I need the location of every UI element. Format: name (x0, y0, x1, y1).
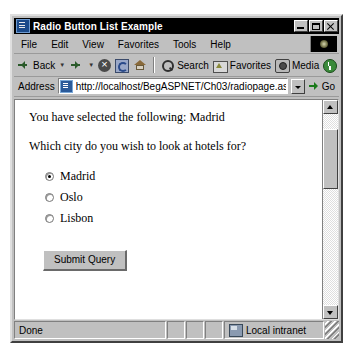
address-url-text: http://localhost/BegASPNET/Ch03/radiopag… (76, 81, 286, 92)
scroll-down-arrow-icon[interactable] (323, 305, 338, 319)
forward-button[interactable] (67, 55, 86, 75)
radio-label-oslo: Oslo (60, 190, 83, 205)
back-arrow-icon (16, 58, 31, 73)
toolbar-separator (153, 57, 155, 73)
maximize-button[interactable] (309, 20, 323, 32)
submit-button-wrap: Submit Query (43, 249, 322, 271)
search-button[interactable]: Search (158, 55, 211, 75)
address-label: Address (18, 81, 55, 92)
back-button[interactable]: Back (14, 55, 57, 75)
vertical-scrollbar[interactable] (322, 100, 338, 319)
refresh-icon (115, 59, 129, 73)
radio-icon-oslo[interactable] (45, 193, 54, 202)
status-pane-2 (186, 321, 204, 339)
radio-button-list: Madrid Oslo Lisbon (45, 168, 322, 227)
window-controls (294, 20, 339, 32)
status-bar: Done Local intranet (14, 321, 339, 339)
close-button[interactable] (324, 20, 338, 32)
forward-arrow-icon (69, 58, 84, 73)
address-input[interactable]: http://localhost/BegASPNET/Ch03/radiopag… (58, 78, 288, 94)
scrollbar-track[interactable] (323, 114, 338, 305)
stop-icon (98, 59, 111, 72)
radio-option-oslo[interactable]: Oslo (45, 189, 322, 206)
resize-grip[interactable] (325, 321, 339, 339)
radio-label-madrid: Madrid (60, 169, 95, 184)
security-zone[interactable]: Local intranet (224, 321, 324, 339)
screenshot-root: Radio Button List Example File Edit View… (0, 0, 353, 350)
radio-label-lisbon: Lisbon (60, 211, 93, 226)
minimize-button[interactable] (294, 20, 308, 32)
radio-icon-lisbon[interactable] (45, 214, 54, 223)
menu-bar: File Edit View Favorites Tools Help (14, 35, 339, 54)
address-dropdown-button[interactable] (291, 79, 305, 94)
menu-item-favorites[interactable]: Favorites (111, 38, 166, 51)
selection-text: You have selected the following: Madrid (29, 110, 322, 125)
refresh-button[interactable] (113, 55, 131, 75)
radio-option-madrid[interactable]: Madrid (45, 168, 322, 185)
history-icon (323, 59, 337, 73)
radio-icon-madrid[interactable] (45, 172, 54, 181)
media-button[interactable]: Media (273, 55, 321, 75)
toolbar: Back ▼ ▼ Search Favorites (14, 54, 339, 77)
app-icon (16, 19, 30, 33)
go-button[interactable]: Go (308, 80, 337, 93)
search-icon (160, 58, 175, 73)
menu-item-view[interactable]: View (75, 38, 111, 51)
title-bar: Radio Button List Example (14, 18, 339, 34)
media-icon (275, 59, 290, 73)
address-bar: Address http://localhost/BegASPNET/Ch03/… (14, 77, 339, 97)
stop-button[interactable] (96, 55, 113, 75)
menu-item-tools[interactable]: Tools (166, 38, 203, 51)
favorites-button[interactable]: Favorites (211, 55, 273, 75)
status-pane-1 (167, 321, 185, 339)
ie-logo-icon (310, 36, 337, 52)
forward-dropdown-icon[interactable]: ▼ (88, 62, 94, 68)
menu-item-help[interactable]: Help (203, 38, 238, 51)
home-icon (133, 58, 148, 73)
back-button-label: Back (33, 60, 55, 71)
scroll-up-arrow-icon[interactable] (323, 100, 338, 114)
menu-item-file[interactable]: File (14, 38, 44, 51)
page-document-icon (60, 80, 73, 93)
content-area: You have selected the following: Madrid … (14, 99, 339, 320)
radio-option-lisbon[interactable]: Lisbon (45, 210, 322, 227)
question-text: Which city do you wish to look at hotels… (29, 139, 322, 154)
submit-query-button[interactable]: Submit Query (43, 250, 127, 271)
window-title: Radio Button List Example (33, 21, 294, 32)
network-zone-icon (229, 324, 243, 337)
back-dropdown-icon[interactable]: ▼ (59, 62, 65, 68)
favorites-button-label: Favorites (230, 60, 271, 71)
home-button[interactable] (131, 55, 150, 75)
scrollbar-thumb[interactable] (323, 129, 338, 189)
security-zone-label: Local intranet (246, 325, 306, 336)
menu-item-edit[interactable]: Edit (44, 38, 75, 51)
go-arrow-icon (308, 80, 321, 93)
web-page: You have selected the following: Madrid … (15, 100, 322, 319)
search-button-label: Search (177, 60, 209, 71)
media-button-label: Media (292, 60, 319, 71)
browser-window: Radio Button List Example File Edit View… (10, 14, 343, 343)
status-pane-3 (205, 321, 223, 339)
favorites-icon (213, 61, 228, 73)
history-button[interactable] (321, 55, 339, 75)
status-text: Done (14, 321, 166, 339)
go-button-label: Go (322, 81, 335, 92)
